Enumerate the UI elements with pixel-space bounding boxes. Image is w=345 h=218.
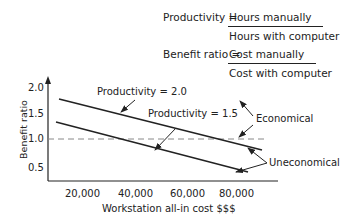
series-productivity-2 [59,99,262,150]
series-productivity-1-5 [56,122,248,172]
x-tick-60000: 60,000 [170,188,205,199]
x-tick-20000: 20,000 [65,188,100,199]
x-tick-80000: 80,000 [219,188,254,199]
label-productivity-2: Productivity = 2.0 [97,86,187,97]
y-tick-1-0: 1.0 [28,133,44,144]
x-tick-40000: 40,000 [118,188,153,199]
label-uneconomical: Uneconomical [269,157,340,168]
y-tick-0-5: 0.5 [28,162,44,173]
y-tick-1-5: 1.5 [28,108,44,119]
y-axis-arrow-icon [45,76,51,84]
y-tick-2-0: 2.0 [28,82,44,93]
label-productivity-1-5: Productivity = 1.5 [148,108,238,119]
label-economical: Economical [256,113,313,124]
x-axis-label: Workstation all-in cost $$$ [102,203,236,214]
